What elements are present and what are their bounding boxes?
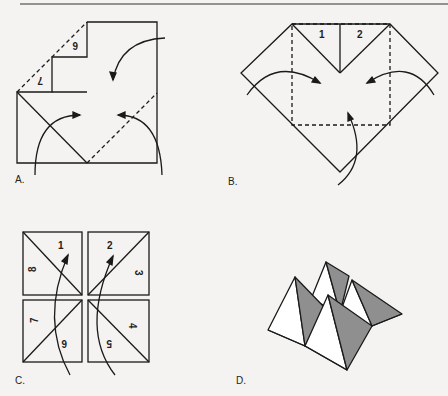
panel-c bbox=[23, 232, 149, 375]
panel-c-number-7: 7 bbox=[29, 317, 40, 323]
panel-c-number-4: 4 bbox=[127, 323, 138, 329]
panel-b bbox=[241, 24, 438, 185]
panel-b-number-2: 2 bbox=[357, 29, 363, 40]
panel-c-number-5: 5 bbox=[106, 338, 112, 349]
panel-a-label: A. bbox=[15, 174, 24, 185]
folding-diagram: 6 7 A. 1 2 B. 1 2 3 4 5 6 7 8 C. bbox=[0, 0, 448, 396]
panel-c-number-2: 2 bbox=[107, 240, 113, 251]
panel-d-label: D. bbox=[236, 375, 246, 386]
panel-c-number-6: 6 bbox=[61, 338, 67, 349]
panel-a bbox=[17, 22, 165, 175]
panel-b-label: B. bbox=[228, 176, 237, 187]
panel-a-number-6: 6 bbox=[72, 40, 78, 51]
panel-c-number-8: 8 bbox=[27, 266, 38, 272]
panel-b-number-1: 1 bbox=[319, 29, 325, 40]
panel-c-label: C. bbox=[15, 375, 25, 386]
panel-d bbox=[268, 262, 402, 370]
panel-a-number-7: 7 bbox=[37, 75, 43, 86]
panel-c-number-3: 3 bbox=[133, 270, 144, 276]
panel-c-number-1: 1 bbox=[58, 240, 64, 251]
